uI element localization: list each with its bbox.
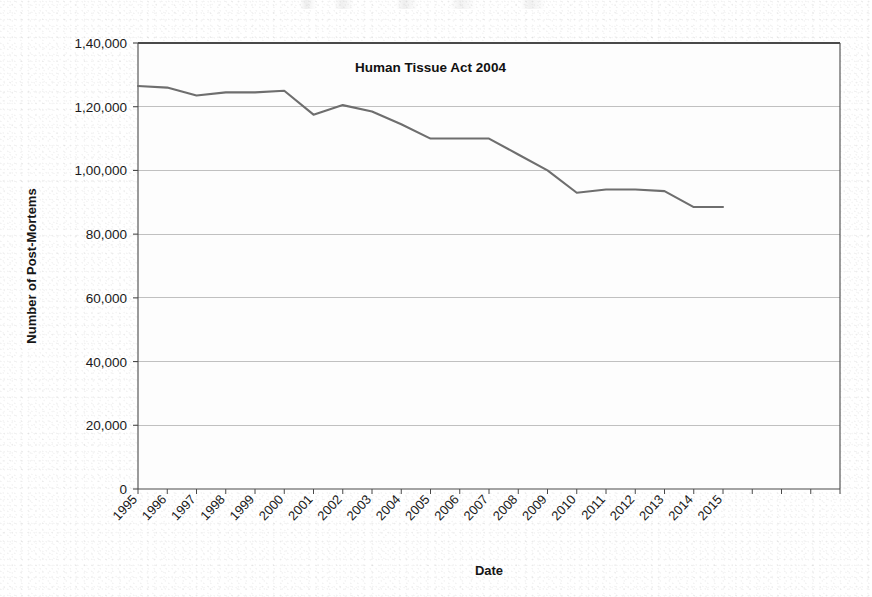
x-tick-label: 1997 xyxy=(168,492,199,523)
y-tick-label: 60,000 xyxy=(86,291,127,306)
x-tick-label: 2010 xyxy=(548,492,579,523)
x-tick-label: 2004 xyxy=(373,492,404,523)
x-tick-label: 1995 xyxy=(109,492,140,523)
y-tick-label: 20,000 xyxy=(86,418,127,433)
y-axis-tick-marks xyxy=(133,43,138,489)
post-mortems-line-chart: 020,00040,00060,00080,0001,00,0001,20,00… xyxy=(0,0,872,597)
x-tick-label: 2011 xyxy=(578,492,608,523)
plot-area-background xyxy=(138,43,840,489)
x-tick-label: 2007 xyxy=(460,492,491,523)
x-tick-label: 1998 xyxy=(197,492,228,523)
x-tick-label: 2002 xyxy=(314,492,345,523)
x-tick-label: 2005 xyxy=(402,492,433,523)
x-tick-label: 2013 xyxy=(636,492,667,523)
x-tick-label: 2009 xyxy=(519,492,550,523)
x-tick-label: 2015 xyxy=(694,492,725,523)
x-axis-title: Date xyxy=(475,563,503,578)
x-tick-label: 2006 xyxy=(431,492,462,523)
x-axis-tick-labels: 1995199619971998199920002001200220032004… xyxy=(109,492,725,523)
y-tick-label: 80,000 xyxy=(86,227,127,242)
y-axis-title: Number of Post-Mortems xyxy=(24,188,39,343)
y-tick-label: 40,000 xyxy=(86,355,127,370)
x-tick-label: 2000 xyxy=(256,492,287,523)
y-tick-label: 1,20,000 xyxy=(74,100,127,115)
y-tick-label: 1,40,000 xyxy=(74,36,127,51)
x-tick-label: 2012 xyxy=(607,492,638,523)
x-tick-label: 1996 xyxy=(139,492,170,523)
y-tick-label: 1,00,000 xyxy=(74,163,127,178)
x-tick-label: 1999 xyxy=(226,492,257,523)
chart-page: 020,00040,00060,00080,0001,00,0001,20,00… xyxy=(0,0,872,597)
x-tick-label: 2001 xyxy=(285,492,316,523)
x-tick-label: 2008 xyxy=(490,492,521,523)
human-tissue-act-annotation: Human Tissue Act 2004 xyxy=(355,60,506,75)
x-tick-label: 2014 xyxy=(665,492,696,523)
x-axis-tick-marks xyxy=(138,489,840,494)
x-tick-label: 2003 xyxy=(343,492,374,523)
y-axis-tick-labels: 020,00040,00060,00080,0001,00,0001,20,00… xyxy=(74,36,127,497)
